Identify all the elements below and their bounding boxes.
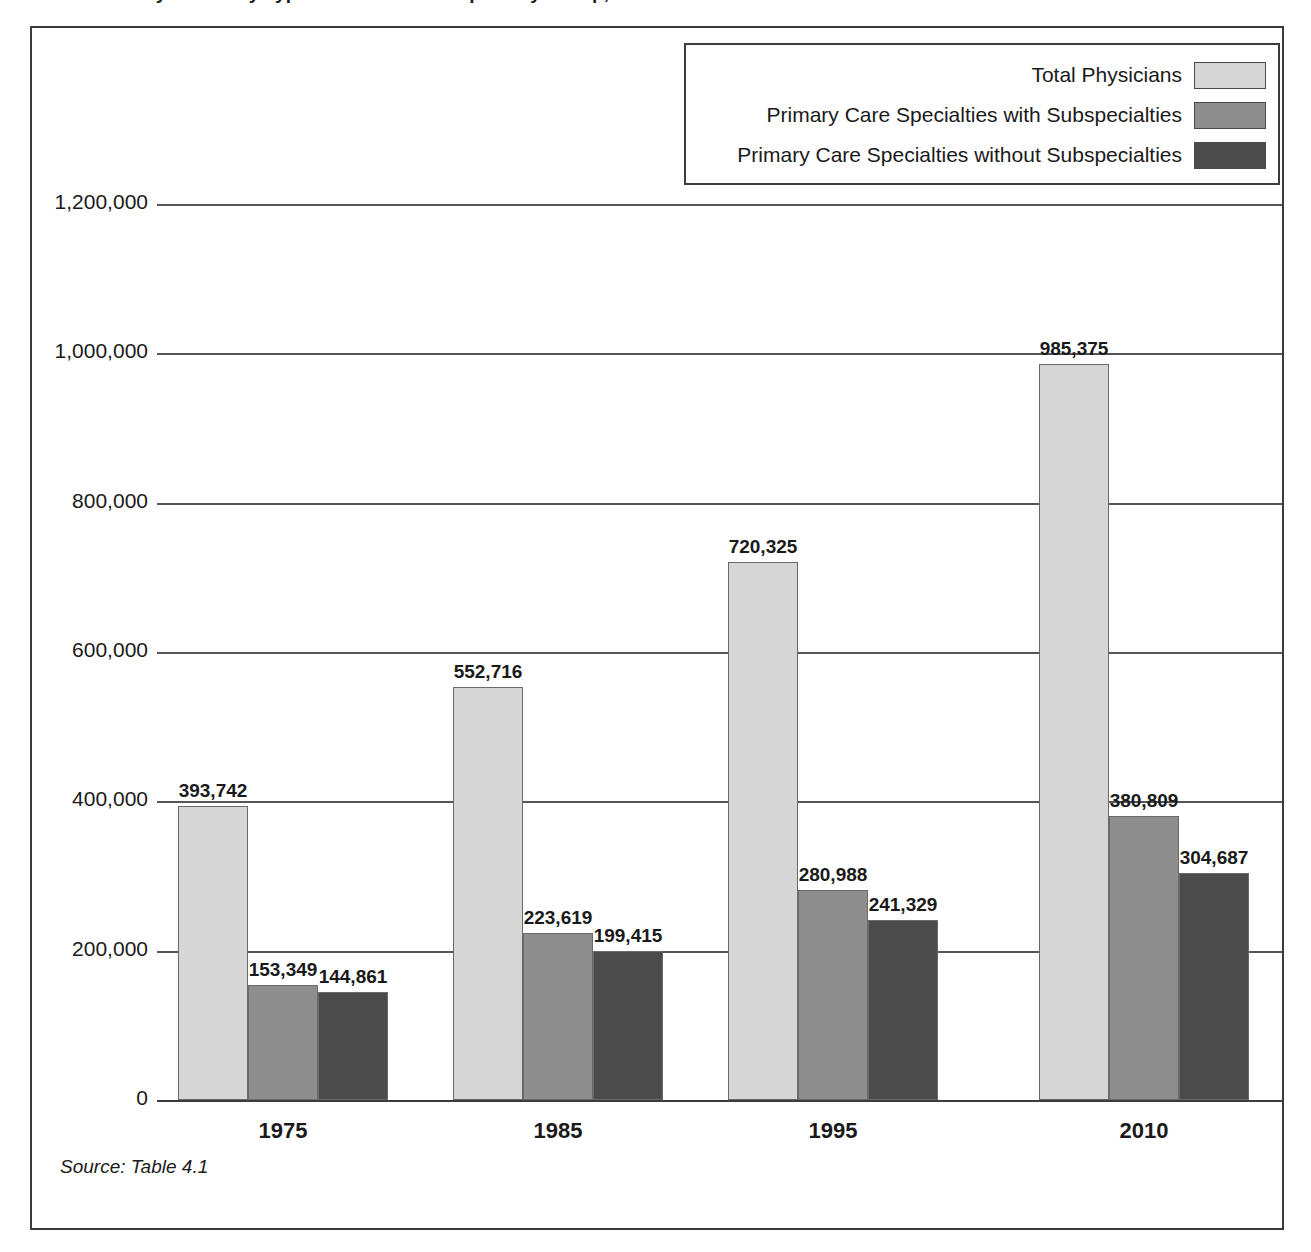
x-axis-tick-label: 1975 <box>143 1118 423 1144</box>
bar <box>248 985 318 1100</box>
bar <box>798 890 868 1100</box>
gridline <box>157 204 1282 206</box>
bar-value-label: 985,375 <box>1019 338 1129 360</box>
bar-value-label: 144,861 <box>298 966 408 988</box>
bar <box>1039 364 1109 1100</box>
bar <box>318 992 388 1100</box>
y-axis-tick-label: 0 <box>0 1086 148 1110</box>
figure-title-text: Number of Physicians by Type of Practice… <box>30 0 750 4</box>
bar-value-label: 304,687 <box>1159 847 1269 869</box>
bar <box>178 806 248 1100</box>
bar-value-label: 280,988 <box>778 864 888 886</box>
legend-swatch-dark-icon <box>1194 142 1266 169</box>
bar-value-label: 720,325 <box>708 536 818 558</box>
bar-value-label: 199,415 <box>573 925 683 947</box>
y-axis-tick-label: 1,000,000 <box>0 339 148 363</box>
bar <box>523 933 593 1100</box>
x-axis-baseline <box>157 1100 1282 1102</box>
legend-swatch-light-icon <box>1194 62 1266 89</box>
x-axis-tick-label: 1985 <box>418 1118 698 1144</box>
legend-swatch-medium-icon <box>1194 102 1266 129</box>
clipped-figure-title: Number of Physicians by Type of Practice… <box>0 0 1311 14</box>
x-axis-tick-label: 1995 <box>693 1118 973 1144</box>
bar <box>1179 873 1249 1100</box>
bar-value-label: 241,329 <box>848 894 958 916</box>
source-note: Source: Table 4.1 <box>60 1156 208 1178</box>
y-axis-tick-label: 1,200,000 <box>0 190 148 214</box>
legend-item-label: Primary Care Specialties with Subspecial… <box>767 103 1195 127</box>
bar <box>868 920 938 1100</box>
bar-value-label: 552,716 <box>433 661 543 683</box>
bar-value-label: 380,809 <box>1089 790 1199 812</box>
chart-plot-area: 0200,000400,000600,000800,0001,000,0001,… <box>32 28 1282 1228</box>
legend-item: Primary Care Specialties without Subspec… <box>696 135 1266 175</box>
bar-value-label: 393,742 <box>158 780 268 802</box>
y-axis-tick-label: 800,000 <box>0 489 148 513</box>
gridline <box>157 652 1282 654</box>
bar <box>453 687 523 1100</box>
gridline <box>157 503 1282 505</box>
legend-item-label: Total Physicians <box>1031 63 1194 87</box>
legend-item: Primary Care Specialties with Subspecial… <box>696 95 1266 135</box>
y-axis-tick-label: 200,000 <box>0 937 148 961</box>
y-axis-tick-label: 600,000 <box>0 638 148 662</box>
legend-item-label: Primary Care Specialties without Subspec… <box>737 143 1194 167</box>
legend-item: Total Physicians <box>696 55 1266 95</box>
x-axis-tick-label: 2010 <box>1004 1118 1284 1144</box>
bar <box>728 562 798 1100</box>
figure-frame: 0200,000400,000600,000800,0001,000,0001,… <box>30 26 1284 1230</box>
bar <box>593 951 663 1100</box>
chart-legend: Total Physicians Primary Care Specialtie… <box>684 43 1280 185</box>
y-axis-tick-label: 400,000 <box>0 787 148 811</box>
